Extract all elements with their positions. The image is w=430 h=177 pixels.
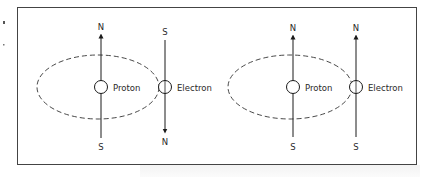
proton-bottom-pole: S [290, 142, 295, 152]
proton-label: Proton [305, 83, 332, 93]
proton-bottom-pole: S [98, 142, 103, 152]
electron-bottom-pole: S [353, 142, 358, 152]
proton-top-pole: N [290, 23, 296, 33]
panel-parallel: N S Proton N S Electron [228, 23, 403, 152]
electron-bottom-pole: N [162, 137, 168, 147]
margin-mark [3, 44, 5, 46]
proton-circle [95, 81, 108, 94]
margin-mark [3, 21, 5, 24]
proton-label: Proton [113, 83, 140, 93]
electron-label: Electron [368, 83, 403, 93]
electron-top-pole: N [353, 23, 359, 33]
proton-electron-spin-diagram: N S Proton S N Electron N S Proton N S E… [0, 0, 430, 177]
proton-circle [287, 81, 300, 94]
proton-top-pole: N [98, 22, 104, 32]
panel-antiparallel: N S Proton S N Electron [37, 22, 212, 152]
electron-top-pole: S [162, 27, 167, 37]
electron-label: Electron [177, 83, 212, 93]
